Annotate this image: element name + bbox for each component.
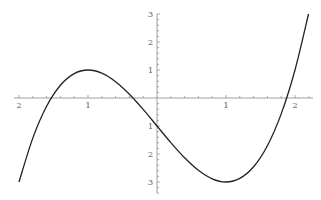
x-tick-label: 2 (292, 101, 297, 110)
y-tick-label: 2 (148, 38, 153, 47)
x-axis: 2112 (14, 95, 313, 110)
x-tick-label: 1 (85, 101, 90, 110)
y-tick-label: 3 (148, 178, 153, 187)
y-axis: 321123 (148, 10, 160, 193)
x-tick-label: 1 (223, 101, 228, 110)
y-tick-label: 2 (148, 150, 153, 159)
y-tick-label: 1 (148, 66, 153, 75)
function-plot: 2112 321123 (0, 0, 321, 200)
x-tick-label: 2 (16, 101, 21, 110)
y-tick-label: 3 (148, 10, 153, 19)
y-tick-label: 1 (148, 122, 153, 131)
